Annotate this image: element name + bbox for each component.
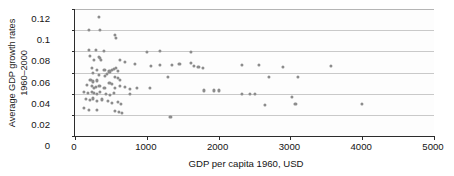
data-point: [282, 66, 285, 69]
y-tick-label: 0.06: [0, 76, 50, 87]
x-tick-mark: [362, 136, 363, 140]
x-tick-label: 0: [71, 141, 76, 152]
data-point: [119, 78, 122, 81]
data-point: [135, 86, 138, 89]
data-point: [100, 58, 103, 61]
x-tick-mark: [147, 136, 148, 140]
data-point: [158, 50, 161, 53]
data-point: [124, 60, 127, 63]
data-point: [212, 89, 215, 92]
data-point: [267, 76, 270, 79]
y-tick-label: 0.08: [0, 55, 50, 66]
data-point: [193, 64, 196, 67]
data-point: [249, 93, 252, 96]
gridline: [75, 51, 434, 52]
data-point: [296, 75, 299, 78]
x-tick-label: 3000: [279, 141, 300, 152]
data-point: [294, 103, 297, 106]
data-point: [145, 50, 148, 53]
data-point: [84, 97, 87, 100]
gridline: [75, 73, 434, 74]
data-point: [102, 50, 105, 53]
data-point: [240, 92, 243, 95]
data-point: [133, 62, 136, 65]
data-point: [114, 87, 117, 90]
data-point: [95, 79, 98, 82]
plot-area: 00.020.040.060.080.10.12: [74, 9, 434, 137]
data-point: [166, 75, 169, 78]
data-point: [257, 64, 260, 67]
data-point: [83, 106, 86, 109]
data-point: [91, 97, 94, 100]
data-point: [105, 72, 108, 75]
data-point: [240, 63, 243, 66]
data-point: [158, 64, 161, 67]
x-tick-mark: [434, 136, 435, 140]
data-point: [90, 67, 93, 70]
data-point: [95, 109, 98, 112]
data-point: [97, 15, 100, 18]
y-tick-label: 0.12: [0, 13, 50, 24]
y-tick-mark: [72, 115, 75, 116]
data-point: [115, 36, 118, 39]
scatter-chart-figure: Average GDP growth rates 1960–2000 00.02…: [0, 0, 454, 176]
x-tick-label: 1000: [135, 141, 156, 152]
data-point: [149, 87, 152, 90]
x-tick-mark: [75, 136, 76, 140]
data-point: [97, 73, 100, 76]
y-tick-label: 0: [0, 140, 50, 151]
y-tick-mark: [72, 30, 75, 31]
y-tick-mark: [72, 73, 75, 74]
data-point: [129, 93, 132, 96]
data-point: [361, 103, 364, 106]
data-point: [170, 64, 173, 67]
data-point: [101, 98, 104, 101]
data-point: [197, 66, 200, 69]
gridline: [75, 9, 434, 10]
data-point: [95, 69, 98, 72]
y-tick-label: 0.1: [0, 34, 50, 45]
data-point: [119, 103, 122, 106]
data-point: [104, 92, 107, 95]
y-tick-mark: [72, 9, 75, 10]
x-axis-title-text: GDP per capita 1960, USD: [188, 158, 303, 169]
data-point: [103, 86, 106, 89]
y-tick-label: 0.02: [0, 118, 50, 129]
x-tick-label: 4000: [351, 141, 372, 152]
x-tick-mark: [290, 136, 291, 140]
data-point: [329, 65, 332, 68]
data-point: [86, 84, 89, 87]
data-point: [263, 103, 266, 106]
x-tick-label: 5000: [422, 141, 443, 152]
y-tick-label: 0.04: [0, 97, 50, 108]
y-tick-mark: [72, 51, 75, 52]
data-point: [87, 108, 90, 111]
data-point: [189, 61, 192, 64]
x-tick-label: 2000: [207, 141, 228, 152]
data-point: [128, 87, 131, 90]
data-point: [98, 85, 101, 88]
data-point: [95, 92, 98, 95]
data-point: [91, 71, 94, 74]
data-point: [109, 93, 112, 96]
data-point: [178, 62, 181, 65]
data-point: [290, 95, 293, 98]
data-point: [201, 67, 204, 70]
data-point: [203, 89, 206, 92]
data-point: [253, 93, 256, 96]
data-point: [92, 59, 95, 62]
data-point: [150, 64, 153, 67]
data-point: [118, 58, 121, 61]
data-point: [111, 83, 114, 86]
data-point: [106, 100, 109, 103]
data-point: [124, 85, 127, 88]
data-point: [218, 89, 221, 92]
x-axis-title: GDP per capita 1960, USD: [0, 158, 454, 169]
data-point: [169, 115, 172, 118]
data-point: [190, 50, 193, 53]
x-tick-mark: [219, 136, 220, 140]
gridline: [75, 30, 434, 31]
gridline: [75, 115, 434, 116]
data-point: [88, 54, 91, 57]
data-point: [96, 100, 99, 103]
